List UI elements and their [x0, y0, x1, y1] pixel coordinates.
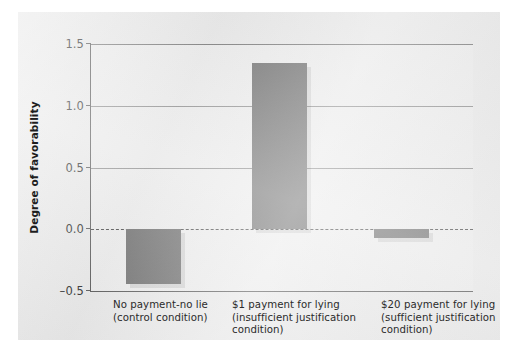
x-axis-label-1: No payment-no lie(control condition) [113, 299, 208, 324]
plot-area: 1.51.00.50.0–0.5 [90, 44, 473, 292]
bar-2[interactable] [252, 63, 307, 230]
bar-1[interactable] [126, 229, 181, 283]
y-tick-label--0.5: –0.5 [60, 284, 84, 298]
y-tick-mark-1.5 [86, 43, 91, 44]
y-tick-label-1.0: 1.0 [65, 99, 84, 113]
x-axis-label-line: (insufficient justification [232, 312, 356, 325]
y-tick-mark-0.5 [86, 167, 91, 168]
x-axis-label-line: $1 payment for lying [232, 299, 356, 312]
x-axis-label-3: $20 payment for lying(sufficient justifi… [381, 299, 496, 337]
x-axis-label-2: $1 payment for lying(insufficient justif… [232, 299, 356, 337]
y-tick-mark-0.0 [86, 228, 91, 229]
x-axis-label-line: condition) [381, 324, 496, 337]
y-tick-mark-1.0 [86, 105, 91, 106]
y-tick-label-0.5: 0.5 [65, 161, 84, 175]
y-tick-label-1.5: 1.5 [65, 37, 84, 51]
figure-canvas: 1.51.00.50.0–0.5 Degree of favorability … [0, 0, 520, 357]
y-axis-title: Degree of favorability [26, 44, 42, 291]
bar-3[interactable] [374, 229, 429, 238]
y-tick-label-0.0: 0.0 [65, 222, 84, 236]
x-axis-label-line: $20 payment for lying [381, 299, 496, 312]
y-tick-mark--0.5 [86, 290, 91, 291]
gridline-1.5 [91, 44, 473, 45]
x-axis-label-line: condition) [232, 324, 356, 337]
x-axis-label-line: No payment-no lie [113, 299, 208, 312]
x-axis-label-line: (control condition) [113, 312, 208, 325]
x-axis-label-line: (sufficient justification [381, 312, 496, 325]
